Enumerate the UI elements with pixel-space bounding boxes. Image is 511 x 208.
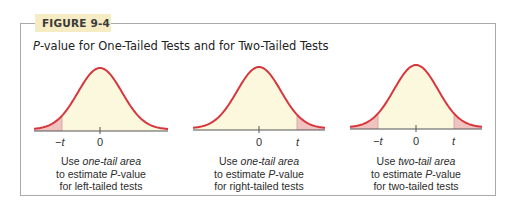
tick-label-zero-3: 0: [413, 135, 419, 147]
tick-label-t-3: t: [452, 135, 455, 147]
tick-label-neg-t-3: −t: [373, 135, 382, 147]
tick-label-t-2: t: [296, 136, 299, 148]
tick-label-neg-t-1: −t: [55, 136, 64, 148]
caption-left-tailed: Use one-tail area to estimate P-value fo…: [26, 155, 176, 193]
tick-label-zero-2: 0: [256, 136, 262, 148]
caption-right-tailed: Use one-tail area to estimate P-value fo…: [184, 155, 334, 193]
caption-two-tailed: Use two-tail area to estimate P-value fo…: [341, 155, 491, 193]
tick-label-zero-1: 0: [97, 136, 103, 148]
